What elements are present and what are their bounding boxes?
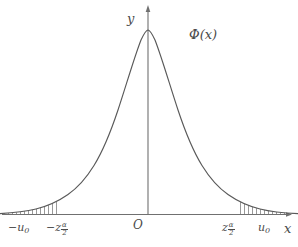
alpha-over-two-fraction: α2 [61,222,68,237]
curve-label: Φ(x) [189,28,217,41]
fraction-denominator-two: 2 [228,230,235,237]
origin-label: O [133,219,143,231]
tick-label-neg-u0: −u0 [8,222,29,235]
minus-sign: − [8,221,17,234]
minus-sign: − [46,221,55,234]
y-axis [146,5,151,215]
tick-subscript-zero: 0 [24,226,29,235]
x-axis-label: x [284,222,291,235]
normal-density-curve [0,30,298,214]
normal-distribution-figure: y x O Φ(x) −u0 −zα2 zα2 u0 [0,0,298,247]
alpha-over-two-fraction: α2 [228,222,235,237]
plot-canvas [0,0,298,247]
tick-label-pos-u0: u0 [258,222,270,235]
left-tail-shading [0,30,148,214]
fraction-denominator-two: 2 [61,230,68,237]
tick-label-pos-z-alpha-half: zα2 [222,222,235,237]
y-axis-label: y [127,12,134,25]
right-tail-shading [148,30,298,214]
tick-label-neg-z-alpha-half: −zα2 [46,222,68,237]
tick-subscript-zero: 0 [265,226,270,235]
